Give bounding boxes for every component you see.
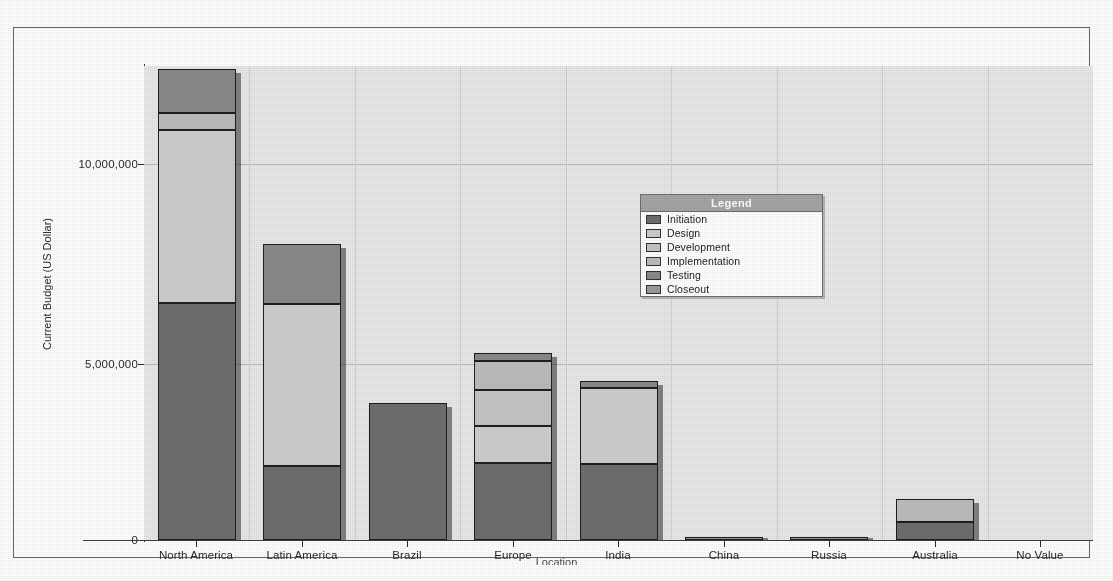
legend-swatch-icon xyxy=(646,285,661,294)
x-axis-line xyxy=(83,540,1093,541)
legend-item-label: Initiation xyxy=(667,213,707,225)
bar-segment-development[interactable] xyxy=(474,390,552,426)
bar-europe[interactable] xyxy=(474,353,552,540)
bar-segment-design[interactable] xyxy=(580,388,658,464)
x-tick-mark-europe xyxy=(513,541,514,547)
legend-title: Legend xyxy=(641,195,822,212)
legend-item-testing[interactable]: Testing xyxy=(646,268,822,282)
bar-china[interactable] xyxy=(685,537,763,540)
legend-swatch-icon xyxy=(646,215,661,224)
bar-segment-implementation[interactable] xyxy=(474,361,552,390)
bar-segment-testing[interactable] xyxy=(263,244,341,304)
bar-segment-implementation[interactable] xyxy=(896,499,974,522)
bar-shadow xyxy=(447,407,452,540)
bar-brazil[interactable] xyxy=(369,403,447,540)
gridline-10m xyxy=(144,164,1093,165)
x-tick-mark-china xyxy=(724,541,725,547)
y-tick-label-5m: 5,000,000 xyxy=(54,358,138,370)
bar-russia[interactable] xyxy=(790,537,868,540)
bar-segment-closeout[interactable] xyxy=(685,537,763,540)
x-tick-mark-australia xyxy=(935,541,936,547)
gridline-v-3 xyxy=(460,66,461,540)
bar-shadow xyxy=(868,538,873,540)
bar-australia[interactable] xyxy=(896,499,974,540)
chart-page: Current Budget (US Dollar) 10,000,000 5,… xyxy=(0,0,1113,581)
bar-segment-initiation[interactable] xyxy=(580,464,658,540)
chart-legend[interactable]: Legend InitiationDesignDevelopmentImplem… xyxy=(640,194,823,297)
gridline-v-8 xyxy=(988,66,989,540)
legend-swatch-icon xyxy=(646,243,661,252)
bar-shadow xyxy=(341,248,346,540)
gridline-v-7 xyxy=(882,66,883,540)
legend-item-label: Implementation xyxy=(667,255,740,267)
bar-segment-design[interactable] xyxy=(158,130,236,303)
legend-item-design[interactable]: Design xyxy=(646,226,822,240)
y-axis-title: Current Budget (US Dollar) xyxy=(41,189,53,379)
bar-shadow xyxy=(236,73,241,540)
legend-item-label: Development xyxy=(667,241,730,253)
gridline-v-6 xyxy=(777,66,778,540)
y-tick-label-10m: 10,000,000 xyxy=(54,158,138,170)
gridline-v-1 xyxy=(249,66,250,540)
bar-india[interactable] xyxy=(580,381,658,540)
bar-segment-closeout[interactable] xyxy=(790,537,868,540)
legend-item-label: Closeout xyxy=(667,283,709,295)
legend-item-label: Design xyxy=(667,227,700,239)
bar-segment-implementation[interactable] xyxy=(158,113,236,130)
bar-segment-initiation[interactable] xyxy=(474,463,552,540)
legend-item-initiation[interactable]: Initiation xyxy=(646,212,822,226)
bar-segment-initiation[interactable] xyxy=(369,403,447,540)
figure-frame: Current Budget (US Dollar) 10,000,000 5,… xyxy=(13,27,1090,558)
bar-segment-design[interactable] xyxy=(263,304,341,465)
bar-segment-testing[interactable] xyxy=(580,381,658,388)
legend-item-development[interactable]: Development xyxy=(646,240,822,254)
bar-segment-testing[interactable] xyxy=(158,69,236,113)
legend-swatch-icon xyxy=(646,257,661,266)
gridline-v-4 xyxy=(566,66,567,540)
x-tick-mark-russia xyxy=(829,541,830,547)
legend-item-closeout[interactable]: Closeout xyxy=(646,282,822,296)
legend-swatch-icon xyxy=(646,271,661,280)
bar-segment-testing[interactable] xyxy=(474,353,552,361)
legend-item-implementation[interactable]: Implementation xyxy=(646,254,822,268)
x-tick-mark-no-value xyxy=(1040,541,1041,547)
bar-shadow xyxy=(552,357,557,540)
x-tick-mark-latin-america xyxy=(302,541,303,547)
x-tick-mark-brazil xyxy=(407,541,408,547)
plot-area xyxy=(144,66,1093,540)
legend-swatch-icon xyxy=(646,229,661,238)
gridline-v-5 xyxy=(671,66,672,540)
x-tick-mark-india xyxy=(618,541,619,547)
bar-segment-design[interactable] xyxy=(474,426,552,463)
x-axis-title: Location xyxy=(0,556,1113,565)
bar-shadow xyxy=(658,385,663,540)
gridline-v-2 xyxy=(355,66,356,540)
bar-segment-initiation[interactable] xyxy=(263,466,341,540)
bar-latin-america[interactable] xyxy=(263,244,341,540)
bar-north-america[interactable] xyxy=(158,69,236,540)
bar-shadow xyxy=(974,503,979,540)
x-tick-mark-north-america xyxy=(196,541,197,547)
legend-items: InitiationDesignDevelopmentImplementatio… xyxy=(641,212,822,296)
bar-segment-initiation[interactable] xyxy=(158,303,236,540)
bar-segment-initiation[interactable] xyxy=(896,522,974,540)
bar-shadow xyxy=(763,538,768,540)
legend-item-label: Testing xyxy=(667,269,701,281)
